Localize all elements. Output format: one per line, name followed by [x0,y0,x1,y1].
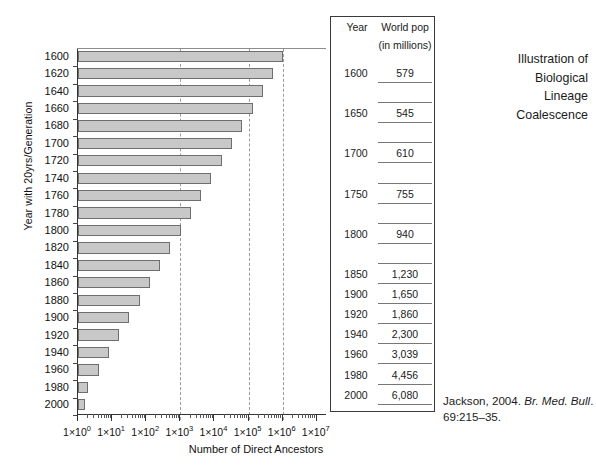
table-row [331,164,434,184]
x-tick-minor [138,414,139,418]
y-tick-label: 1860 [45,276,69,288]
x-tick-minor [190,414,191,418]
x-tick-label: 1×105 [234,424,262,438]
x-tick-minor [234,414,235,418]
x-tick-label: 1×103 [165,424,193,438]
x-tick-minor [172,414,173,418]
table-row: 1650545 [331,103,434,123]
bar-row [78,101,327,116]
x-tick-label: 1×106 [268,424,296,438]
caption-line-1: Illustration of [443,50,588,69]
table-row [331,123,434,143]
figure-caption: Illustration of Biological Lineage Coale… [443,50,588,124]
table-cell-year: 2000 [335,385,377,405]
x-tick-minor [208,414,209,418]
x-tick-label: 1×101 [97,424,125,438]
x-tick-minor [308,414,309,418]
x-tick-minor [292,414,293,418]
x-tick-minor [196,414,197,418]
bar-row [78,171,327,186]
x-tick-label: 1×100 [63,424,91,438]
x-tick-major [282,414,283,421]
bar-row [78,345,327,360]
bar [78,329,119,340]
bar [78,242,170,253]
table-cell-year: 1980 [335,365,377,385]
source-credit: Jackson, 2004. Br. Med. Bull. 69:215–35. [443,393,595,425]
x-tick-minor [101,414,102,418]
table-cell-year: 1650 [335,103,377,123]
table-row: 20006,080 [331,385,434,405]
y-tick-label: 1880 [45,294,69,306]
bar-row [78,49,327,64]
table-cell-world-pop [378,244,432,264]
table-row: 19804,456 [331,365,434,385]
x-tick-minor [206,414,207,418]
bar [78,364,99,375]
x-tick-minor [237,414,238,418]
x-tick-minor [135,414,136,418]
table-cell-world-pop: 1,860 [378,304,432,324]
table-row: 1800940 [331,224,434,244]
y-tick-label: 1720 [45,154,69,166]
table-cell-world-pop [378,164,432,184]
table-cell-year: 1960 [335,344,377,364]
y-tick-label: 1660 [45,102,69,114]
bar-row [78,188,327,203]
y-tick-label: 1960 [45,363,69,375]
x-tick-major [213,414,214,421]
x-tick-minor [140,414,141,418]
table-cell-world-pop: 545 [378,103,432,123]
table-row: 19603,039 [331,344,434,364]
table-cell-year: 1600 [335,63,377,83]
bar [78,207,191,218]
x-tick-label: 1×104 [200,424,228,438]
bar [78,120,242,131]
table-cell-world-pop: 610 [378,143,432,163]
bar [78,382,88,393]
table-cell-year: 1900 [335,284,377,304]
bar [78,138,232,149]
x-tick-minor [132,414,133,418]
table-cell-world-pop: 940 [378,224,432,244]
table-cell-year: 1850 [335,264,377,284]
x-tick-minor [242,414,243,418]
x-tick-major [145,414,146,421]
table-cell-world-pop: 579 [378,63,432,83]
x-tick-label: 1×107 [302,424,330,438]
bar [78,155,222,166]
plot-top-rule [77,48,326,49]
bar [78,85,263,96]
y-tick-label: 1780 [45,207,69,219]
x-tick-minor [305,414,306,418]
y-tick-label: 1680 [45,119,69,131]
table-row: 19201,860 [331,304,434,324]
bar-row [78,293,327,308]
bar-row [78,380,327,395]
x-tick-minor [298,414,299,418]
x-tick-minor [258,414,259,418]
bar [78,225,181,236]
y-tick-label: 1700 [45,137,69,149]
y-tick-label: 1600 [45,50,69,62]
x-tick-minor [271,414,272,418]
bar [78,173,211,184]
bar-row [78,119,327,134]
bar-row [78,398,327,413]
y-tick-label: 1980 [45,381,69,393]
x-axis-title: Number of Direct Ancestors [136,443,376,455]
x-tick-minor [98,414,99,418]
figure-canvas: Year with 20yrs/Generation 1600162016401… [0,0,596,467]
table-cell-year: 1700 [335,143,377,163]
bar [78,312,129,323]
bar [78,260,160,271]
x-tick-minor [224,414,225,418]
x-tick-label: 1×102 [131,424,159,438]
x-tick-minor [203,414,204,418]
y-tick-label: 1640 [45,85,69,97]
bar-row [78,363,327,378]
table-row: 18501,230 [331,264,434,284]
table-cell-year: 1920 [335,304,377,324]
bar [78,347,109,358]
world-population-table: Year World pop (in millions) 16005791650… [330,16,435,412]
